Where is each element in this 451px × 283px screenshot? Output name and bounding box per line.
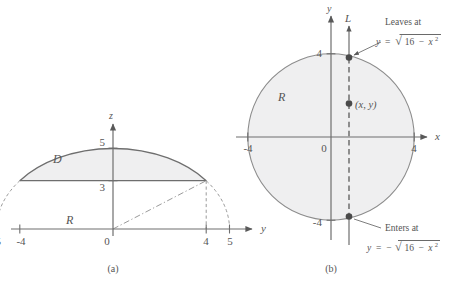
- panel-b-xtick-0: 0: [321, 142, 327, 154]
- enters-radicand-x: x: [427, 243, 433, 253]
- panel-a-xtick-4: 4: [203, 235, 209, 247]
- enters-lhs: y: [366, 243, 372, 253]
- leaves-annotation-title: Leaves at: [385, 17, 421, 27]
- panel-a-ytick-5: 5: [100, 136, 106, 148]
- semicircle-dashed-left: [0, 181, 20, 229]
- leaves-lhs: y: [375, 37, 381, 47]
- panel-b-xtick-4: 4: [411, 142, 417, 154]
- panel-b-region-r-label: R: [277, 90, 286, 104]
- panel-b-xaxis-label: x: [434, 130, 440, 142]
- sample-point-label: (x, y): [355, 99, 377, 111]
- panel-a-xtick-neg4: -4: [16, 235, 26, 247]
- enters-annotation: Enters at y = − √ 16 − x 2: [366, 223, 440, 254]
- panel-a-region-r-label: R: [65, 213, 74, 227]
- leaves-radicand-x: x: [427, 37, 433, 47]
- leaves-annotation: Leaves at y = √ 16 − x 2: [375, 17, 441, 48]
- semicircle-dashed-right: [206, 181, 229, 229]
- enters-radicand-a: 16: [405, 243, 415, 253]
- figure-svg: y z -5 -4 0 4 5 5 3 D R (a): [0, 0, 451, 283]
- line-l-label: L: [344, 12, 351, 24]
- panel-a-xtick-5: 5: [227, 235, 233, 247]
- sample-point: [346, 100, 353, 107]
- enters-leader-line: [354, 219, 381, 228]
- panel-b-yaxis-label: y: [326, 3, 332, 14]
- radius-segment: [113, 181, 206, 229]
- panel-b-xtick-neg4: -4: [243, 142, 253, 154]
- panel-a-ytick-3: 3: [100, 181, 106, 193]
- leaves-annotation-formula: y = √ 16 − x 2: [375, 34, 438, 48]
- leaves-radicand-a: 16: [405, 37, 415, 47]
- enters-annotation-title: Enters at: [385, 223, 419, 233]
- enters-radicand-exp: 2: [435, 241, 438, 248]
- panel-a-region-d-label: D: [52, 152, 62, 166]
- panel-b: x y L -4 0 4 4 -4 R (x, y) Leaves at y =…: [236, 3, 441, 275]
- leaves-radicand-exp: 2: [435, 35, 438, 42]
- panel-a-xtick-0: 0: [104, 235, 110, 247]
- enters-point: [346, 213, 353, 220]
- enters-sign: −: [386, 243, 391, 253]
- panel-a-xtick-neg5: -5: [0, 235, 2, 247]
- figure-container: y z -5 -4 0 4 5 5 3 D R (a): [0, 0, 451, 283]
- enters-eq: =: [376, 243, 381, 253]
- panel-b-ytick-neg4: -4: [313, 216, 323, 228]
- leaves-radicand-minus: −: [419, 37, 424, 47]
- panel-a-yaxis-label: z: [108, 110, 113, 121]
- leaves-radical-glyph: √: [395, 34, 402, 48]
- panel-b-caption: (b): [325, 263, 337, 275]
- enters-annotation-formula: y = − √ 16 − x 2: [366, 240, 438, 254]
- panel-b-ytick-4: 4: [317, 47, 323, 59]
- leaves-point: [346, 54, 353, 61]
- leaves-eq: =: [385, 37, 390, 47]
- enters-radical-glyph: √: [395, 240, 402, 254]
- panel-a-xaxis-label: y: [260, 222, 266, 234]
- panel-a-caption: (a): [107, 263, 118, 275]
- panel-a: y z -5 -4 0 4 5 5 3 D R (a): [0, 110, 266, 275]
- enters-radicand-minus: −: [418, 243, 423, 253]
